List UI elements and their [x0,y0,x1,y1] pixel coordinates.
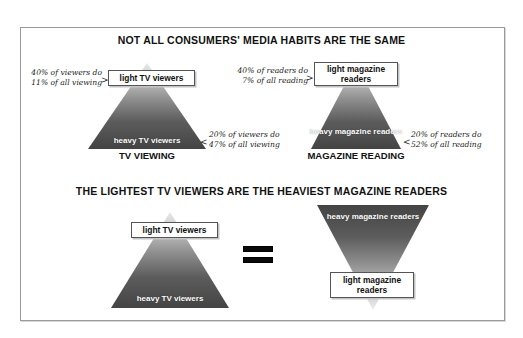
tv-heavy-annotation: 20% of viewers do 47% of all viewing [209,130,299,149]
magazine-reading-caption: MAGAZINE READING [296,150,416,161]
tv-heavy-viewers-label-bottom: heavy TV viewers [111,294,229,304]
equals-bar-top [243,246,273,252]
magazine-light-readers-box: light magazine readers [314,62,398,86]
magazine-light-annotation-line1: 40% of readers do [224,66,308,76]
tv-viewing-caption: TV VIEWING [88,150,206,161]
magazine-heavy-annotation: 20% of readers do 52% of all reading [411,130,506,149]
magazine-heavy-readers-bottom-line2: readers [390,212,419,221]
diagram-canvas: NOT ALL CONSUMERS' MEDIA HABITS ARE THE … [0,0,523,338]
tv-heavy-annotation-line1: 20% of viewers do [209,130,299,140]
tv-light-viewers-label: light TV viewers [120,73,184,83]
magazine-light-readers-bottom-line2: readers [357,285,387,295]
magazine-light-readers-line1: light magazine [327,64,385,74]
magazine-light-readers-box-bottom: light magazine readers [330,272,414,298]
tv-light-viewers-label-bottom: light TV viewers [143,225,207,235]
figure-title-top: NOT ALL CONSUMERS' MEDIA HABITS ARE THE … [0,34,523,46]
magazine-light-readers-line2: readers [341,74,371,84]
tv-light-viewers-box-bottom: light TV viewers [131,222,218,238]
tv-heavy-viewers-label: heavy TV viewers [88,136,206,146]
tv-heavy-annotation-line2: 47% of all viewing [209,140,299,150]
tv-light-viewers-box: light TV viewers [108,70,195,86]
magazine-light-annotation-line2: 7% of all reading [224,76,308,86]
tv-heavy-pointer-icon: < [200,138,208,147]
magazine-heavy-readers-line1: heavy magazine [310,127,371,136]
tv-light-annotation-line2: 11% of all viewing [18,78,102,88]
magazine-heavy-annotation-line1: 20% of readers do [411,130,506,140]
magazine-heavy-readers-label-bottom: heavy magazine readers [323,212,423,222]
equals-bar-bottom [243,257,273,263]
magazine-light-pointer-icon: > [306,74,314,83]
tv-light-pointer-icon: > [101,76,109,85]
magazine-heavy-pointer-icon: < [403,138,411,147]
equals-sign-icon [243,246,273,263]
magazine-light-readers-bottom-line1: light magazine [343,275,401,285]
magazine-heavy-annotation-line2: 52% of all reading [411,140,506,150]
magazine-light-annotation: 40% of readers do 7% of all reading [224,66,308,85]
magazine-heavy-readers-bottom-line1: heavy magazine [327,212,388,221]
magazine-heavy-readers-label: heavy magazine readers [306,127,406,137]
tv-light-annotation: 40% of viewers do 11% of all viewing [18,68,102,87]
figure-title-bottom: THE LIGHTEST TV VIEWERS ARE THE HEAVIEST… [0,185,523,197]
tv-light-annotation-line1: 40% of viewers do [18,68,102,78]
magazine-heavy-readers-line2: readers [373,127,402,136]
